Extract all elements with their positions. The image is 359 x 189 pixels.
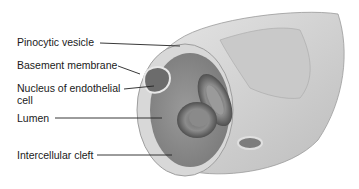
vesicle-lower bbox=[238, 137, 262, 149]
label-nucleus-of-endothelial: Nucleus of endothelial bbox=[17, 83, 120, 94]
label-nucleus-cell: cell bbox=[17, 95, 33, 106]
label-basement-membrane: Basement membrane bbox=[17, 60, 117, 71]
label-pinocytic-vesicle: Pinocytic vesicle bbox=[17, 37, 94, 48]
endothelial-nucleus bbox=[144, 67, 170, 93]
label-lumen: Lumen bbox=[17, 113, 49, 124]
label-intercellular-cleft: Intercellular cleft bbox=[17, 150, 93, 161]
